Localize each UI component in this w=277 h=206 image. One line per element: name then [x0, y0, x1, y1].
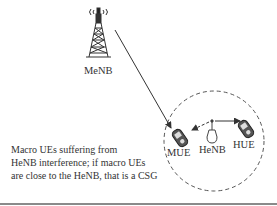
- bottom-rule: [0, 203, 277, 205]
- henb-label: HeNB: [199, 145, 226, 156]
- menb-to-mue-link: [115, 30, 171, 128]
- menb-label: MeNB: [84, 66, 113, 77]
- caption-line: are close to the HeNB, that is a CSG: [11, 169, 157, 182]
- caption-line: HeNB interference; if macro UEs: [11, 156, 157, 169]
- mobile-phone-icon: [171, 128, 190, 148]
- henb-to-mue-interference: [192, 122, 209, 130]
- femtocell-icon: [207, 120, 217, 143]
- hue-label: HUE: [233, 140, 255, 151]
- caption-line: Macro UEs suffering from: [11, 143, 157, 156]
- mobile-phone-icon: [237, 119, 256, 139]
- mue-label: MUE: [167, 148, 190, 159]
- caption: Macro UEs suffering from HeNB interferen…: [11, 143, 157, 182]
- cell-tower-icon: [86, 8, 111, 57]
